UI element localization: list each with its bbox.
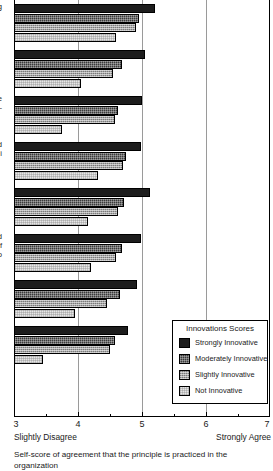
bar	[14, 161, 123, 170]
bar	[14, 207, 118, 216]
bar	[14, 299, 107, 308]
legend-item-label: Not Innovative	[195, 386, 242, 396]
bar-group	[14, 188, 270, 226]
bar	[14, 280, 137, 289]
legend-title: Innovations Scores	[173, 324, 267, 333]
bar	[14, 188, 150, 197]
x-tick-label-7: 7	[264, 419, 269, 430]
x-tick-minor-3.5	[46, 414, 47, 417]
x-axis-anchor-high: Strongly Agree	[216, 432, 271, 442]
bar-group	[14, 234, 270, 272]
y-axis-label: d i	[0, 140, 2, 158]
x-axis-tick-labels: 34567	[0, 419, 273, 433]
bar	[14, 234, 141, 243]
bar	[14, 33, 116, 42]
legend-swatch-icon	[179, 386, 190, 396]
bar	[14, 115, 115, 124]
bar	[14, 23, 136, 32]
bar	[14, 253, 116, 262]
x-tick-minor-5.5	[174, 414, 175, 417]
bar	[14, 125, 62, 134]
x-tick-label-3: 3	[13, 419, 18, 430]
bar	[14, 50, 145, 59]
x-tick-5	[142, 412, 143, 417]
x-tick-6	[206, 412, 207, 417]
y-axis-label: re i-	[0, 94, 2, 112]
legend-swatch-icon	[179, 370, 190, 380]
x-tick-3	[14, 412, 15, 417]
bar	[14, 14, 139, 23]
bar	[14, 345, 110, 354]
legend-swatch-icon	[179, 338, 190, 348]
bar-group	[14, 4, 270, 42]
bar	[14, 336, 115, 345]
bar	[14, 244, 122, 253]
x-tick-minor-6.5	[238, 414, 239, 417]
bar	[14, 142, 141, 151]
bar	[14, 217, 88, 226]
bar-group	[14, 142, 270, 180]
chart-caption: Self-score of agreement that the princip…	[14, 449, 273, 471]
bar	[14, 263, 91, 272]
legend-item-label: Strongly Innovative	[195, 338, 258, 348]
bar	[14, 171, 98, 180]
bar-group	[14, 50, 270, 88]
y-axis-label: ed f o	[0, 232, 2, 259]
bar	[14, 79, 81, 88]
bar	[14, 4, 155, 13]
y-axis-labels: gre i-d ied f o	[0, 0, 14, 417]
bar	[14, 326, 128, 335]
x-tick-4	[78, 412, 79, 417]
bar	[14, 69, 113, 78]
y-axis-label: g	[0, 2, 2, 11]
bar-group	[14, 280, 270, 318]
legend-item-label: Slightly Innovative	[195, 370, 255, 380]
bar	[14, 309, 75, 318]
legend-item-label: Moderately Innovative	[195, 354, 267, 364]
bar	[14, 96, 142, 105]
bar	[14, 290, 120, 299]
x-tick-minor-4.5	[110, 414, 111, 417]
legend: Innovations Scores Strongly InnovativeMo…	[172, 320, 268, 404]
x-tick-label-4: 4	[75, 419, 80, 430]
bar-group	[14, 96, 270, 134]
x-tick-7	[269, 412, 270, 417]
bar	[14, 60, 122, 69]
bar	[14, 198, 124, 207]
bar	[14, 152, 126, 161]
x-tick-label-5: 5	[139, 419, 144, 430]
x-axis-anchor-low: Slightly Disagree	[14, 432, 77, 442]
bar	[14, 106, 118, 115]
legend-swatch-icon	[179, 354, 190, 364]
bar	[14, 355, 43, 364]
x-tick-label-6: 6	[203, 419, 208, 430]
